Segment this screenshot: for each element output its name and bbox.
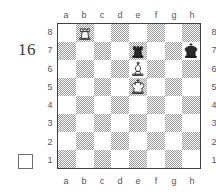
square-d8[interactable] — [111, 24, 129, 42]
square-a6[interactable] — [58, 60, 76, 78]
square-d3[interactable] — [111, 114, 129, 132]
square-e6[interactable] — [129, 60, 147, 78]
square-d5[interactable] — [111, 78, 129, 96]
square-a2[interactable] — [58, 132, 76, 150]
side-to-move-indicator — [18, 154, 33, 169]
file-label-h: h — [183, 8, 201, 22]
square-e2[interactable] — [129, 132, 147, 150]
square-g3[interactable] — [165, 114, 183, 132]
file-label-bottom-b: b — [75, 174, 93, 188]
file-labels-top: a b c d e f g h — [57, 8, 201, 22]
square-h7[interactable] — [182, 42, 200, 60]
white-rook-icon[interactable] — [76, 25, 93, 42]
square-c5[interactable] — [94, 78, 112, 96]
file-label-bottom-a: a — [57, 174, 75, 188]
rank-label-right-8: 8 — [209, 23, 216, 41]
square-c4[interactable] — [94, 96, 112, 114]
square-b7[interactable] — [76, 42, 94, 60]
rank-label-right-3: 3 — [209, 114, 216, 132]
black-rook-icon[interactable] — [129, 43, 146, 60]
square-h1[interactable] — [182, 150, 200, 168]
rank-label-2: 2 — [45, 133, 55, 151]
square-e7[interactable] — [129, 42, 147, 60]
rank-label-right-6: 6 — [209, 60, 216, 78]
file-label-bottom-f: f — [147, 174, 165, 188]
square-c1[interactable] — [94, 150, 112, 168]
square-c6[interactable] — [94, 60, 112, 78]
square-g8[interactable] — [165, 24, 183, 42]
square-g4[interactable] — [165, 96, 183, 114]
square-f3[interactable] — [147, 114, 165, 132]
file-label-c: c — [93, 8, 111, 22]
square-e5[interactable] — [129, 78, 147, 96]
square-h6[interactable] — [182, 60, 200, 78]
square-b2[interactable] — [76, 132, 94, 150]
square-a4[interactable] — [58, 96, 76, 114]
rank-label-right-4: 4 — [209, 96, 216, 114]
file-label-d: d — [111, 8, 129, 22]
white-bishop-icon[interactable] — [129, 61, 146, 78]
square-f2[interactable] — [147, 132, 165, 150]
square-h8[interactable] — [182, 24, 200, 42]
file-label-bottom-c: c — [93, 174, 111, 188]
square-f7[interactable] — [147, 42, 165, 60]
square-h2[interactable] — [182, 132, 200, 150]
file-label-e: e — [129, 8, 147, 22]
file-label-bottom-h: h — [183, 174, 201, 188]
white-king-icon[interactable] — [129, 79, 146, 96]
square-h4[interactable] — [182, 96, 200, 114]
square-b3[interactable] — [76, 114, 94, 132]
rank-labels-right: 8 7 6 5 4 3 2 1 — [209, 23, 216, 169]
rank-labels-left: 8 7 6 5 4 3 2 1 — [45, 23, 55, 169]
square-b1[interactable] — [76, 150, 94, 168]
square-b6[interactable] — [76, 60, 94, 78]
rank-label-7: 7 — [45, 41, 55, 59]
square-b8[interactable] — [76, 24, 94, 42]
square-c3[interactable] — [94, 114, 112, 132]
file-label-bottom-d: d — [111, 174, 129, 188]
square-b5[interactable] — [76, 78, 94, 96]
square-d7[interactable] — [111, 42, 129, 60]
square-g2[interactable] — [165, 132, 183, 150]
square-g5[interactable] — [165, 78, 183, 96]
rank-label-4: 4 — [45, 96, 55, 114]
square-e4[interactable] — [129, 96, 147, 114]
square-c7[interactable] — [94, 42, 112, 60]
square-a7[interactable] — [58, 42, 76, 60]
square-a1[interactable] — [58, 150, 76, 168]
rank-label-5: 5 — [45, 78, 55, 96]
rank-label-3: 3 — [45, 114, 55, 132]
file-label-g: g — [165, 8, 183, 22]
file-labels-bottom: a b c d e f g h — [57, 174, 201, 188]
file-label-f: f — [147, 8, 165, 22]
square-b4[interactable] — [76, 96, 94, 114]
black-king-icon[interactable] — [183, 43, 200, 60]
square-c8[interactable] — [94, 24, 112, 42]
square-f8[interactable] — [147, 24, 165, 42]
square-f6[interactable] — [147, 60, 165, 78]
square-e1[interactable] — [129, 150, 147, 168]
chess-diagram: a b c d e f g h 8 7 6 5 4 3 2 1 8 7 6 5 … — [56, 8, 208, 188]
square-g1[interactable] — [165, 150, 183, 168]
square-f4[interactable] — [147, 96, 165, 114]
square-f5[interactable] — [147, 78, 165, 96]
rank-label-right-7: 7 — [209, 41, 216, 59]
square-h5[interactable] — [182, 78, 200, 96]
square-d6[interactable] — [111, 60, 129, 78]
square-c2[interactable] — [94, 132, 112, 150]
square-d2[interactable] — [111, 132, 129, 150]
square-g6[interactable] — [165, 60, 183, 78]
square-d4[interactable] — [111, 96, 129, 114]
board-grid — [58, 24, 200, 168]
square-g7[interactable] — [165, 42, 183, 60]
rank-label-8: 8 — [45, 23, 55, 41]
square-a8[interactable] — [58, 24, 76, 42]
square-a3[interactable] — [58, 114, 76, 132]
square-a5[interactable] — [58, 78, 76, 96]
square-e3[interactable] — [129, 114, 147, 132]
square-f1[interactable] — [147, 150, 165, 168]
square-e8[interactable] — [129, 24, 147, 42]
file-label-b: b — [75, 8, 93, 22]
square-d1[interactable] — [111, 150, 129, 168]
square-h3[interactable] — [182, 114, 200, 132]
